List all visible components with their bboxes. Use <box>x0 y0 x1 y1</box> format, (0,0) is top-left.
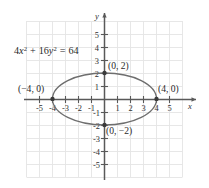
point-marker-left-vertex <box>50 97 54 101</box>
point-label-right-vertex: (4, 0) <box>158 83 179 95</box>
y-tick-label--3: -3 <box>93 135 100 144</box>
equation-plus: + <box>30 45 36 56</box>
x-tick-label--2: -2 <box>75 104 82 113</box>
point-label-top-vertex: (0, 2) <box>108 60 129 72</box>
equation-sup-a: 2 <box>24 45 27 52</box>
y-tick-label--1: -1 <box>93 109 100 118</box>
y-tick-label--2: -2 <box>93 122 100 131</box>
y-axis-label: y <box>94 11 99 21</box>
y-tick-label-1: 1 <box>95 83 99 92</box>
point-label-left-vertex: (−4, 0) <box>18 83 44 95</box>
equation-rhs: 64 <box>68 45 78 56</box>
equation-equals: = <box>60 45 66 56</box>
point-marker-top-vertex <box>102 71 106 75</box>
x-tick-label-5: 5 <box>167 104 171 113</box>
point-label-bottom-vertex: (0, −2) <box>106 125 132 137</box>
x-tick-label-2: 2 <box>128 104 132 113</box>
point-marker-right-vertex <box>154 97 158 101</box>
x-tick-label-1: 1 <box>115 104 119 113</box>
x-axis-label: x <box>187 101 192 111</box>
y-tick-label-3: 3 <box>95 57 99 66</box>
y-tick-label--4: -4 <box>93 148 101 157</box>
x-tick-label-3: 3 <box>141 104 145 113</box>
equation-sup-b: 2 <box>53 45 56 52</box>
graph-figure: -5 -4 -3 -2 -1 1 2 3 4 5 5 4 3 2 1 -1 -2… <box>0 0 209 188</box>
coordinate-plane-svg: -5 -4 -3 -2 -1 1 2 3 4 5 5 4 3 2 1 -1 -2… <box>0 0 209 188</box>
y-tick-label-5: 5 <box>95 31 99 40</box>
y-tick-label--5: -5 <box>93 161 100 170</box>
x-tick-label--3: -3 <box>62 104 69 113</box>
equation-coef-b: 16 <box>39 45 49 56</box>
x-tick-label--5: -5 <box>36 104 43 113</box>
